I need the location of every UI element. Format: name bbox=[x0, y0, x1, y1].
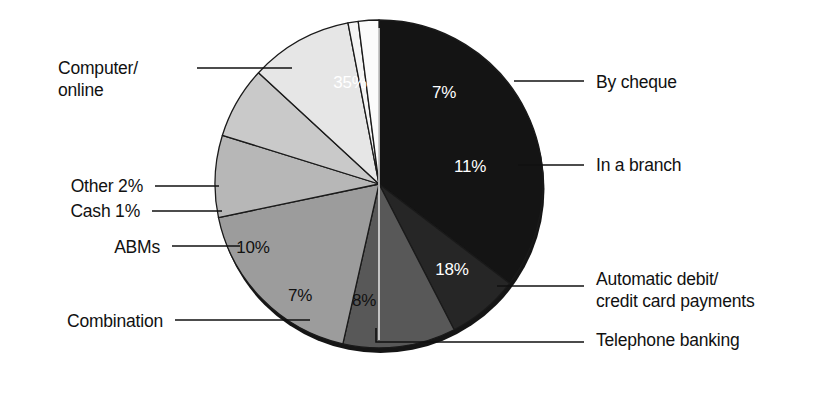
slice-value-label: 35% bbox=[333, 73, 367, 92]
callout-label-line: Computer/ bbox=[58, 58, 138, 78]
callout-label: Automatic debit/credit card payments bbox=[596, 269, 755, 311]
slice-value-label: 8% bbox=[352, 291, 376, 310]
callout-label: By cheque bbox=[596, 72, 677, 92]
callout-label-line: Automatic debit/ bbox=[596, 269, 719, 289]
pie-chart-svg: 35%7%11%18%8%7%10% Computer/onlineBy che… bbox=[0, 0, 822, 394]
callout-label: Telephone banking bbox=[596, 330, 740, 350]
callout-label: Combination bbox=[67, 311, 163, 331]
callout-label-line: online bbox=[58, 80, 104, 100]
slice-value-label: 18% bbox=[435, 260, 469, 279]
callout-label: ABMs bbox=[114, 237, 160, 257]
callout-label: In a branch bbox=[596, 155, 681, 175]
slice-value-label: 11% bbox=[454, 157, 486, 176]
slice-value-label: 7% bbox=[432, 83, 456, 102]
slice-value-label: 7% bbox=[288, 286, 312, 305]
callout-label: Computer/online bbox=[58, 58, 138, 100]
pie-chart-figure: 35%7%11%18%8%7%10% Computer/onlineBy che… bbox=[0, 0, 822, 394]
callout-label: Other 2% bbox=[71, 176, 143, 196]
callout-label: Cash 1% bbox=[70, 201, 140, 221]
callout-label-line: credit card payments bbox=[596, 291, 755, 311]
slice-value-label: 10% bbox=[236, 238, 270, 257]
